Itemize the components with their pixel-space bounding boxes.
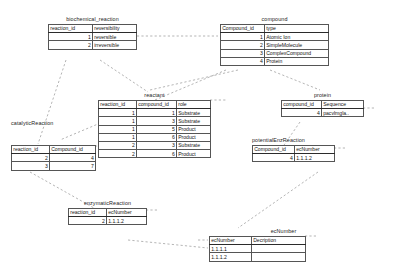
column-header[interactable]: role <box>177 101 211 109</box>
cell-compound-id: 5 <box>137 125 177 133</box>
table-row[interactable]: 1 reversible <box>49 33 137 41</box>
table-header-row: reaction_id ecNumber <box>69 209 147 217</box>
column-header[interactable]: type <box>265 25 329 33</box>
entity-table[interactable]: compound_id Sequence 4 pacvlmgla.. <box>281 100 364 117</box>
column-header[interactable]: Compound_id <box>221 25 265 33</box>
cell-reaction-id: 2 <box>99 141 137 149</box>
cell-reaction-id: 2 <box>99 150 137 158</box>
column-header[interactable]: reaction_id <box>49 25 93 33</box>
table-row[interactable]: 1 6 Product <box>99 133 211 141</box>
column-header[interactable]: reaction_id <box>99 101 137 109</box>
table-row[interactable]: 2 1.1.1.2 <box>69 217 147 225</box>
cell-ec-number: 1.1.1.2 <box>210 253 252 261</box>
table-row[interactable]: 2 3 Substrate <box>99 141 211 149</box>
cell-compound-id: 1 <box>137 109 177 117</box>
edge-enzymaticreaction-ecnumber <box>128 240 208 248</box>
entity-table[interactable]: Compound_id type 1 Atomic Ion 2 SimpleMo… <box>220 24 329 66</box>
column-header[interactable]: Compound_id <box>253 146 295 154</box>
cell-compound-id: 7 <box>50 162 96 170</box>
table-row[interactable]: 4 1.1.1.2 <box>253 154 335 162</box>
table-row[interactable]: 2 irreversible <box>49 41 137 49</box>
cell-compound-id: 6 <box>137 150 177 158</box>
entity-title: enzymaticReaction <box>68 200 147 207</box>
column-header[interactable]: reaction_id <box>12 146 50 154</box>
table-row[interactable]: 3 7 <box>12 162 96 170</box>
cell-compound-id: 4 <box>253 154 295 162</box>
table-row[interactable]: 1 1 Substrate <box>99 109 211 117</box>
entity-table[interactable]: reaction_id Compound_id 2 4 3 7 <box>11 145 96 171</box>
cell-type: Atomic Ion <box>265 33 329 41</box>
entity-table[interactable]: ecNumber Decription 1.1.1.1 1.1.1.2 <box>209 236 306 262</box>
table-header-row: compound_id Sequence <box>282 101 364 109</box>
entity-title: ecNumber <box>261 228 306 235</box>
column-header[interactable]: ecNumber <box>295 146 335 154</box>
cell-compound-id: 4 <box>282 109 322 117</box>
entity-potential-enz-reaction[interactable]: potentialEnzReaction Compound_id ecNumbe… <box>252 137 335 162</box>
column-header[interactable]: reaction_id <box>69 209 107 217</box>
cell-compound-id: 4 <box>221 57 265 65</box>
column-header[interactable]: reversibility <box>93 25 137 33</box>
table-row[interactable]: 2 SimpleMolecule <box>221 41 329 49</box>
cell-compound-id: 3 <box>137 141 177 149</box>
cell-type: SimpleMolecule <box>265 41 329 49</box>
entity-table[interactable]: reaction_id ecNumber 2 1.1.1.2 <box>68 208 147 225</box>
cell-role: Product <box>177 150 211 158</box>
cell-reversibility: reversible <box>93 33 137 41</box>
entity-table[interactable]: reaction_id reversibility 1 reversible 2… <box>48 24 137 50</box>
table-row[interactable]: 3 ComplexCompound <box>221 49 329 57</box>
entity-biochemical-reaction[interactable]: biochemical_reaction reaction_id reversi… <box>48 16 137 50</box>
edge-compound-reactant <box>150 70 238 90</box>
table-row[interactable]: 1 Atomic Ion <box>221 33 329 41</box>
cell-decription <box>252 253 306 261</box>
cell-role: Substrate <box>177 141 211 149</box>
column-header[interactable]: Compound_id <box>50 146 96 154</box>
cell-reaction-id: 1 <box>99 109 137 117</box>
table-row[interactable]: 1.1.1.1 <box>210 245 306 253</box>
cell-reaction-id: 1 <box>99 117 137 125</box>
cell-type: ComplexCompound <box>265 49 329 57</box>
column-header[interactable]: compound_id <box>282 101 322 109</box>
entity-reactant[interactable]: reactant reaction_id compound_id role 1 … <box>98 92 211 158</box>
table-header-row: reaction_id reversibility <box>49 25 137 33</box>
column-header[interactable]: ecNumber <box>107 209 147 217</box>
column-header[interactable]: ecNumber <box>210 237 252 245</box>
table-row[interactable]: 4 pacvlmgla.. <box>282 109 364 117</box>
entity-title: biochemical_reaction <box>48 16 137 23</box>
table-row[interactable]: 2 6 Product <box>99 150 211 158</box>
cell-decription <box>252 245 306 253</box>
cell-role: Product <box>177 125 211 133</box>
entity-protein[interactable]: protein compound_id Sequence 4 pacvlmgla… <box>281 92 364 117</box>
table-header-row: ecNumber Decription <box>210 237 306 245</box>
entity-title: catalyticReaction <box>11 120 96 127</box>
entity-title: compound <box>220 16 329 23</box>
table-row[interactable]: 1.1.1.2 <box>210 253 306 261</box>
entity-table[interactable]: Compound_id ecNumber 4 1.1.1.2 <box>252 145 335 162</box>
cell-ec-number: 1.1.1.2 <box>295 154 335 162</box>
entity-ec-number[interactable]: ecNumber ecNumber Decription 1.1.1.1 1.1… <box>209 228 306 262</box>
cell-compound-id: 6 <box>137 133 177 141</box>
edge-compound-protein <box>270 70 320 90</box>
table-row[interactable]: 4 Protein <box>221 57 329 65</box>
cell-compound-id: 2 <box>221 41 265 49</box>
column-header[interactable]: Sequence <box>322 101 364 109</box>
table-header-row: Compound_id type <box>221 25 329 33</box>
table-row[interactable]: 1 3 Substrate <box>99 117 211 125</box>
column-header[interactable]: compound_id <box>137 101 177 109</box>
cell-type: Protein <box>265 57 329 65</box>
cell-reversibility: irreversible <box>93 41 137 49</box>
entity-table[interactable]: reaction_id compound_id role 1 1 Substra… <box>98 100 211 158</box>
entity-compound[interactable]: compound Compound_id type 1 Atomic Ion 2… <box>220 16 329 66</box>
entity-catalytic-reaction[interactable]: catalyticReaction reaction_id Compound_i… <box>11 120 96 171</box>
cell-role: Product <box>177 133 211 141</box>
cell-reaction-id: 1 <box>99 133 137 141</box>
table-header-row: reaction_id compound_id role <box>99 101 211 109</box>
cell-ec-number: 1.1.1.1 <box>210 245 252 253</box>
column-header[interactable]: Decription <box>252 237 306 245</box>
edge-biochemreaction-reactant <box>100 60 148 92</box>
entity-enzymatic-reaction[interactable]: enzymaticReaction reaction_id ecNumber 2… <box>68 200 147 225</box>
table-row[interactable]: 2 4 <box>12 154 96 162</box>
cell-compound-id: 3 <box>137 117 177 125</box>
table-row[interactable]: 1 5 Product <box>99 125 211 133</box>
cell-ec-number: 1.1.1.2 <box>107 217 147 225</box>
cell-reaction-id: 2 <box>12 154 50 162</box>
